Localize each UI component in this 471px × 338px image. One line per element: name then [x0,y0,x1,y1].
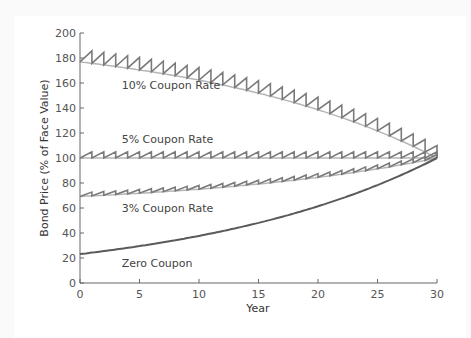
y-tick-label: 40 [62,227,76,240]
y-axis-title: Bond Price (% of Face Value) [38,79,51,236]
x-tick-label: 25 [371,288,385,301]
series-label: 10% Coupon Rate [122,79,221,92]
x-tick-label: 30 [430,288,444,301]
y-tick-label: 120 [55,127,76,140]
sawtooth-3-coupon-rate [80,154,437,196]
curve-3-coupon-rate [80,158,437,196]
y-tick-label: 160 [55,77,76,90]
y-tick-label: 60 [62,202,76,215]
series-label: 3% Coupon Rate [122,202,214,215]
x-tick-label: 15 [252,288,266,301]
y-tick-label: 0 [69,277,76,290]
axes: 020406080100120140160180200051015202530 [55,27,444,301]
series-label: 5% Coupon Rate [122,133,214,146]
x-tick-label: 0 [77,288,84,301]
sawtooth-5-coupon-rate [80,152,437,158]
y-tick-label: 20 [62,252,76,265]
x-tick-label: 5 [136,288,143,301]
x-tick-label: 10 [192,288,206,301]
y-tick-label: 180 [55,52,76,65]
x-tick-label: 20 [311,288,325,301]
x-axis-title: Year [245,302,270,315]
y-tick-label: 80 [62,177,76,190]
y-tick-label: 100 [55,152,76,165]
series-label: Zero Coupon [122,257,193,270]
y-tick-label: 140 [55,102,76,115]
y-tick-label: 200 [55,27,76,40]
